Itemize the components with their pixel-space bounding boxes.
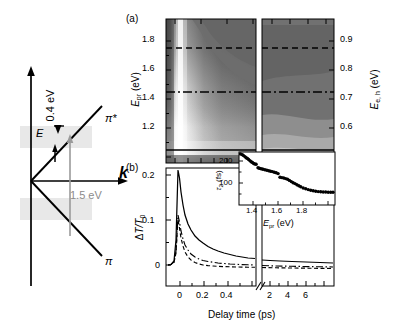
panel-a-heatmap: [166, 19, 334, 163]
panel-a-ytick-1: 1.8: [142, 35, 155, 44]
panel-a-right-axis-title: Ee, h (eV): [370, 45, 381, 135]
panel-b-ytick-3: 0: [155, 261, 160, 270]
panel-b-xtick-1: 0.2: [196, 291, 209, 300]
panel-b-xtick-5: 6: [303, 291, 308, 300]
panel-b-y-axis-title: ΔT/T0: [135, 188, 146, 268]
inset-xtick-1: 1.4: [246, 207, 257, 215]
panel-a-right-axis-unit: (eV): [369, 69, 380, 91]
offset-energy-label: 0.4 eV: [45, 78, 56, 134]
panel-b-label: (b): [126, 163, 138, 173]
panel-a-right-axis-subscript: e, h: [374, 91, 381, 103]
panel-b-y-axis-subscript: 0: [139, 215, 146, 219]
panel-b-xtick-0: 0: [177, 291, 182, 300]
panel-a-left-axis-unit: (eV): [130, 72, 141, 94]
band-diagram: [2, 58, 137, 288]
inset-x-axis-title: Epr (eV): [263, 219, 294, 229]
panel-b-xtick-2: 0.4: [220, 291, 233, 300]
inset-y-axis-subscript: 2: [218, 184, 224, 187]
curve-dashed-right: [262, 268, 333, 269]
panel-a-right-ytick-2: 0.8: [340, 64, 353, 73]
curve-solid-right: [262, 260, 333, 263]
panel-a-left-axis-title: Epr (eV): [131, 50, 142, 130]
pi-label: π: [105, 256, 112, 267]
inset-y-axis-unit: (fs): [214, 170, 223, 184]
figure-root: E k π* π 0.4 eV 1.5 eV (a): [0, 0, 393, 333]
inset-xtick-3: 1.8: [296, 207, 307, 215]
panel-b-x-ticks: [180, 281, 324, 286]
probe-energy-label: 1.5 eV: [70, 190, 102, 201]
panel-b-y-ticks: [166, 175, 171, 265]
panel-b-xtick-3: 2: [267, 291, 272, 300]
inset-y-axis-symbol: τ: [214, 188, 223, 191]
panel-b-y-axis-delta: Δ: [134, 234, 145, 241]
curve-dashed-left: [168, 219, 255, 267]
panel-a-right-ytick-3: 0.7: [340, 93, 353, 102]
panel-a-ytick-3: 1.4: [142, 93, 155, 102]
panel-b-xtick-4: 4: [285, 291, 290, 300]
panel-a-left-axis-subscript: pr: [135, 94, 142, 100]
panel-b-x-axis-title: Delay time (ps): [208, 310, 275, 320]
panel-a-label: (a): [126, 14, 138, 24]
energy-axis-arrow: [27, 66, 35, 76]
panel-a-right-ytick-4: 0.6: [340, 122, 353, 131]
inset-xtick-2: 1.6: [271, 207, 282, 215]
inset-y-axis-title: τ2 (fs): [215, 151, 224, 211]
panel-a-left-axis-symbol: E: [130, 100, 141, 107]
panel-a-right-axis-symbol: E: [369, 103, 380, 110]
pi-star-label: π*: [105, 113, 117, 124]
panel-b-ytick-1: 0.2: [142, 171, 155, 180]
panel-a-ytick-4: 1.2: [142, 122, 155, 131]
panel-a-right-ytick-1: 0.9: [340, 35, 353, 44]
panel-b-y-axis-symbol: T/T: [134, 219, 145, 234]
panel-a-ytick-2: 1.6: [142, 64, 155, 73]
curve-dashdot-right: [262, 266, 333, 268]
energy-axis-label: E: [36, 128, 43, 139]
heatmap-right-subpanel: [262, 19, 334, 163]
inset-x-axis-unit: (eV): [274, 218, 294, 228]
